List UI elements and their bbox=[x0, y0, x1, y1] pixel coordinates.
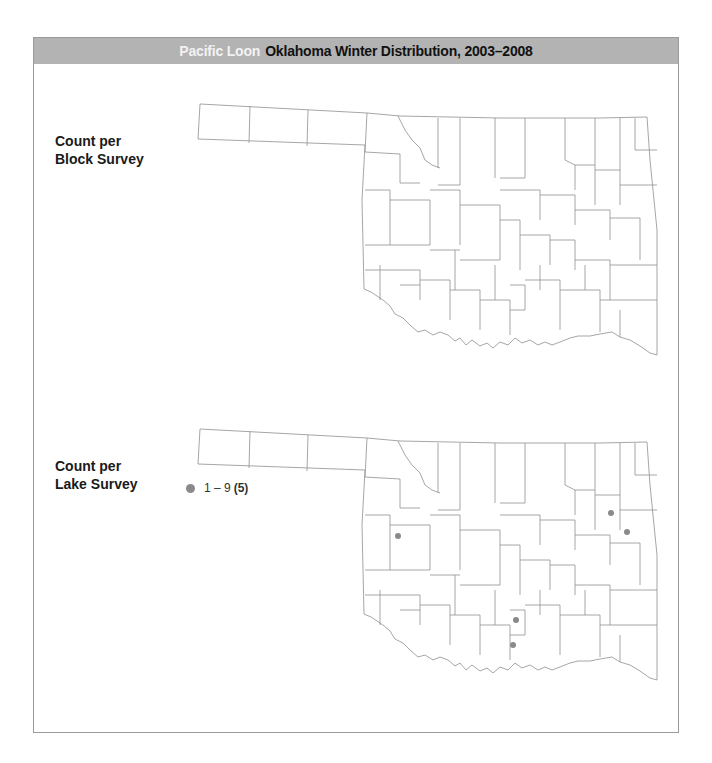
legend-range: 1 – 9 bbox=[204, 481, 231, 495]
map-legend: 1 – 9 (5) bbox=[186, 481, 248, 495]
observation-dot bbox=[624, 529, 630, 535]
panel-label-lake-survey: Count per Lake Survey bbox=[55, 457, 138, 493]
figure-title: Oklahoma Winter Distribution, 2003–2008 bbox=[265, 43, 533, 59]
county-boundaries bbox=[198, 104, 657, 355]
observation-dot bbox=[510, 642, 516, 648]
panel-label-line1: Count per bbox=[55, 132, 144, 150]
county-boundaries bbox=[198, 429, 657, 680]
observation-dot bbox=[513, 617, 519, 623]
oklahoma-county-map bbox=[195, 425, 665, 695]
panel-label-line2: Lake Survey bbox=[55, 475, 138, 493]
state-outline bbox=[198, 429, 657, 680]
panel-label-line1: Count per bbox=[55, 457, 138, 475]
legend-count: (5) bbox=[234, 481, 249, 495]
map-lake-survey bbox=[195, 425, 665, 695]
legend-dot-icon bbox=[186, 484, 195, 493]
panel-label-block-survey: Count per Block Survey bbox=[55, 132, 144, 168]
figure-header: Pacific Loon Oklahoma Winter Distributio… bbox=[34, 38, 678, 64]
map-block-survey bbox=[195, 100, 665, 370]
species-name: Pacific Loon bbox=[179, 43, 260, 59]
observation-dot bbox=[608, 510, 614, 516]
observation-dot bbox=[395, 533, 401, 539]
panel-label-line2: Block Survey bbox=[55, 150, 144, 168]
oklahoma-county-map bbox=[195, 100, 665, 370]
state-outline bbox=[198, 104, 657, 355]
